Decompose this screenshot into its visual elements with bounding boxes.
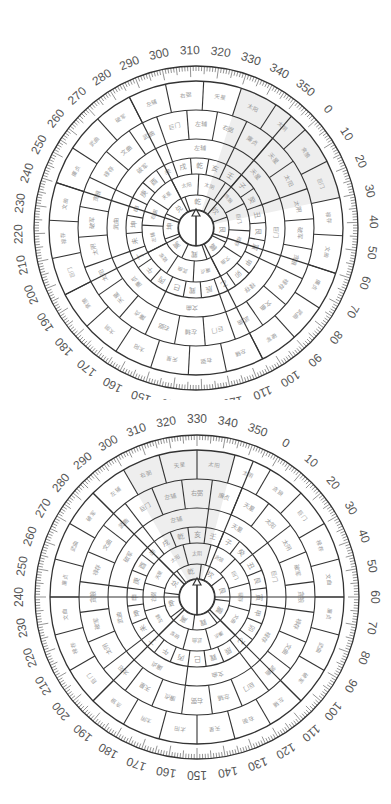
degree-label: 100 [321, 699, 345, 724]
cell-text: 天星 [138, 680, 152, 693]
degree-label: 250 [28, 132, 50, 157]
degree-label: 20 [324, 473, 344, 492]
degree-label: 150 [129, 387, 153, 400]
cell-text: 太阴 [89, 243, 99, 256]
degree-label: 80 [355, 649, 373, 667]
cell-text: 破军 [158, 251, 170, 263]
degree-label: 110 [299, 722, 323, 745]
degree-label: 50 [364, 245, 380, 260]
cell-text: 左辅 [233, 348, 247, 360]
compass-dial-top: 0102030405060708090100110120130140150160… [0, 0, 391, 400]
cell-text: 巨门 [211, 324, 224, 334]
cell-text: 文曲 [186, 303, 198, 312]
cell-text: 文曲 [101, 538, 114, 552]
cell-text: 文曲 [280, 642, 293, 656]
degree-label: 220 [20, 646, 40, 670]
degree-label: 130 [192, 398, 213, 400]
degree-label: 330 [239, 49, 263, 69]
cell-text: 甲 [252, 609, 262, 618]
cell-text: 巽 [191, 249, 198, 257]
cell-text: 巽 [189, 286, 196, 294]
degree-label: 200 [49, 699, 73, 724]
degree-label: 170 [74, 356, 99, 380]
degree-label: 140 [160, 396, 182, 400]
cell-text: 破军 [91, 617, 102, 631]
cell-text: 天星 [208, 724, 221, 733]
degree-label: 170 [124, 754, 148, 774]
degree-label: 260 [44, 106, 68, 131]
luopan-top-svg: 0102030405060708090100110120130140150160… [0, 0, 391, 400]
cell-text: 文曲 [60, 608, 69, 621]
degree-label: 290 [71, 449, 96, 473]
degree-label: 310 [180, 43, 201, 58]
cell-text: 右弼 [191, 697, 203, 705]
degree-label: 40 [355, 528, 373, 546]
cell-text: 天星 [161, 190, 173, 202]
cell-text: 禄存 [242, 280, 256, 294]
cell-text: 左辅 [271, 696, 285, 710]
cell-text: 天星 [112, 290, 126, 304]
luopan-bottom-svg: 0102030405060708090100110120130140150160… [0, 404, 391, 804]
cell-text: 庚 [138, 189, 149, 200]
degree-label: 160 [155, 763, 177, 780]
degree-label: 210 [32, 673, 54, 698]
degree-label: 210 [13, 253, 31, 276]
cell-text: 右弼 [241, 714, 255, 726]
cell-text: 廉贞 [163, 692, 177, 703]
cell-text: 巳 [194, 655, 201, 663]
degree-label: 230 [13, 616, 30, 638]
cell-text: 酉 [149, 177, 160, 188]
cell-text: 右弼 [157, 321, 171, 332]
cell-text: 艮 [217, 226, 225, 233]
degree-label: 340 [217, 413, 239, 430]
cell-text: 艮 [252, 577, 262, 586]
cell-text: 廉贞 [150, 660, 164, 673]
cell-text: 坤 [167, 599, 178, 608]
cell-text: 太阴 [101, 642, 114, 656]
degree-label: 10 [302, 451, 321, 471]
degree-label: 80 [326, 328, 345, 347]
cell-text: 廉贞 [70, 164, 82, 178]
degree-label: 250 [13, 555, 30, 577]
degree-label: 20 [352, 153, 370, 171]
cell-text: 太阳 [132, 342, 146, 354]
cell-text: 巨门 [229, 569, 240, 581]
cell-text: 武曲 [192, 637, 202, 644]
degree-label: 30 [362, 183, 379, 199]
cell-text: 破军 [88, 216, 97, 228]
cell-text: 未 [130, 237, 140, 246]
cell-text: 廉贞 [199, 266, 210, 275]
cell-text: 禄存 [324, 211, 333, 224]
degree-label: 260 [20, 524, 40, 548]
cell-text: 艮 [254, 228, 262, 235]
degree-label: 350 [246, 420, 270, 440]
cell-text: 左辅 [145, 97, 159, 109]
cell-text: 太阳 [263, 516, 277, 530]
cell-text: 破军 [85, 509, 99, 523]
cell-text: 廉贞 [324, 608, 333, 621]
degree-label: 50 [364, 558, 380, 574]
cell-text: 天星 [154, 569, 165, 581]
cell-text: 亥 [194, 530, 201, 539]
cell-text: 文曲 [322, 246, 332, 259]
cell-text: 禄存 [59, 232, 68, 245]
cell-text: 破军 [135, 162, 149, 176]
cell-text: 文曲 [324, 573, 333, 586]
degree-label: 90 [305, 350, 325, 370]
cell-text: 坤 [165, 223, 174, 230]
cell-text: 武曲 [314, 641, 326, 655]
cell-text: 巨门 [242, 680, 256, 693]
cell-text: 兑 [173, 203, 184, 214]
cell-text: 巨门 [65, 265, 77, 279]
cell-text: 破军 [264, 331, 278, 344]
cell-text: 禄存 [68, 641, 80, 655]
compass-dial-bottom: 0102030405060708090100110120130140150160… [0, 404, 391, 804]
degree-label: 310 [124, 420, 148, 440]
cell-text: 丙 [177, 652, 186, 662]
cell-text: 右弼 [200, 356, 213, 365]
cell-text: 右弼 [179, 91, 192, 100]
cell-text: 午 [160, 646, 171, 657]
degree-label: 140 [216, 763, 238, 780]
cell-text: 左辅 [149, 231, 158, 242]
cell-text: 贪狼 [271, 485, 285, 499]
